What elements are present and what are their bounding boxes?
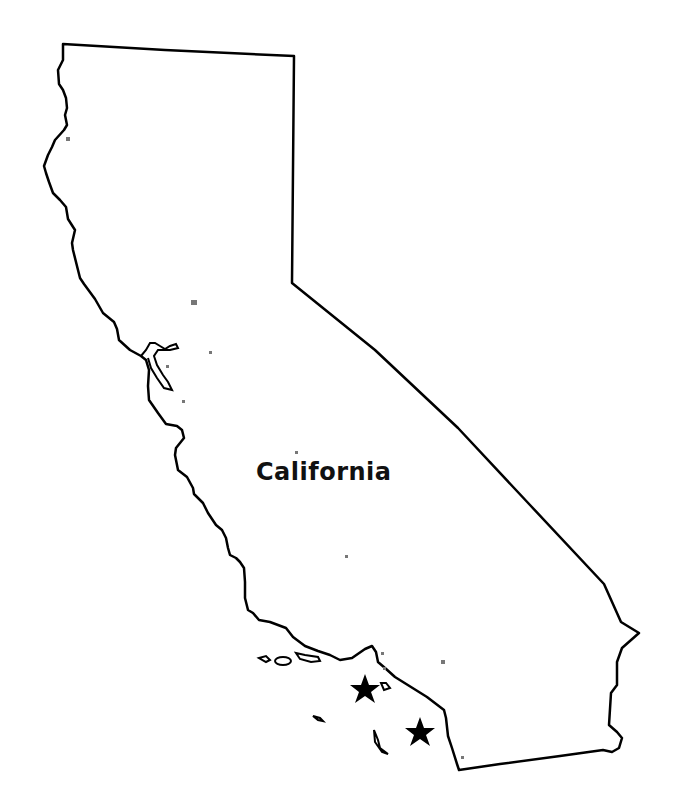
island-san-clemente [374, 730, 388, 754]
state-outline [44, 44, 639, 770]
state-label: California [256, 458, 392, 486]
california-map [0, 0, 674, 808]
channel-islands [259, 653, 390, 754]
island-anacapa [381, 683, 390, 690]
island-santa-barbara [313, 716, 323, 721]
island-santa-cruz [296, 653, 320, 662]
island-santa-rosa [275, 657, 291, 665]
island-san-miguel [259, 656, 270, 662]
star-marker-south [405, 717, 435, 746]
star-marker-north [350, 674, 380, 703]
